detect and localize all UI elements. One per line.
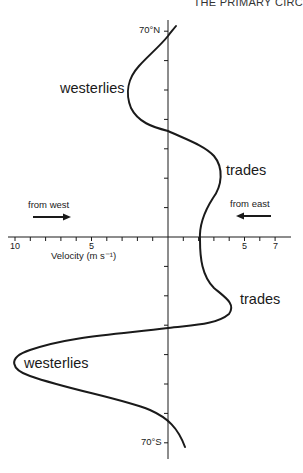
x-tick-label-5-east: 5 [242,241,247,251]
trades-south-label: trades [240,291,280,307]
from-west-label: from west [28,199,70,210]
westerlies-south-label: westerlies [23,355,88,371]
x-axis-label: Velocity (m s⁻¹) [51,250,116,261]
wind-profile-diagram: 10 5 5 7 Velocity (m s⁻¹) 70°N 70°S from… [0,0,303,473]
y-axis-top-label: 70°N [139,24,160,35]
axes [8,20,291,459]
westerlies-north-label: westerlies [59,80,124,96]
trades-north-label: trades [226,162,266,178]
arrow-left-icon [236,213,271,220]
y-axis-bottom-label: 70°S [141,436,162,447]
arrow-right-icon [33,214,71,221]
from-east-label: from east [230,198,270,209]
x-tick-label-10: 10 [10,241,20,251]
x-tick-label-7: 7 [273,241,278,251]
x-axis-ticks [15,237,275,241]
